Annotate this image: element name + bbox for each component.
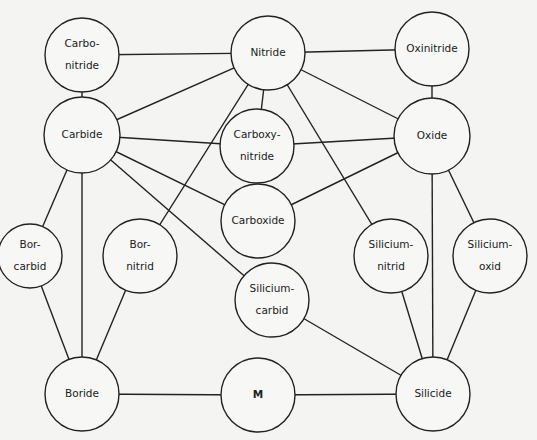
node-label: Silicium-: [468, 238, 513, 250]
node-siliciumcarbid: Silicium-carbid: [235, 263, 309, 337]
node-carboxide: Carboxide: [221, 184, 295, 258]
node-circle: [453, 219, 527, 293]
node-oxide: Oxide: [394, 98, 470, 174]
node-circle: [0, 224, 62, 288]
node-label: carbid: [14, 260, 47, 272]
node-label: Carbide: [62, 128, 103, 140]
node-siliciumnitrid: Silicium-nitrid: [354, 219, 428, 293]
node-label: M: [253, 388, 263, 400]
node-label: Carboxide: [231, 214, 284, 226]
node-siliciumoxid: Silicium-oxid: [453, 219, 527, 293]
node-label: Oxide: [417, 129, 448, 141]
node-carbide: Carbide: [44, 97, 120, 173]
node-boride: Boride: [45, 357, 119, 431]
node-label: nitride: [240, 150, 274, 162]
node-label: oxid: [479, 260, 501, 272]
node-label: Carboxy-: [234, 128, 281, 140]
node-carbonitride: Carbo-nitride: [45, 18, 119, 92]
node-bornitrid: Bor-nitrid: [103, 219, 177, 293]
node-label: Carbo-: [64, 37, 99, 49]
node-label: Bor-: [19, 238, 40, 250]
node-label: Silicium-: [369, 238, 414, 250]
node-label: nitrid: [377, 260, 405, 272]
node-nitride: Nitride: [231, 16, 305, 90]
node-silicide: Silicide: [396, 357, 470, 431]
node-borcarbid: Bor-carbid: [0, 224, 62, 288]
node-label: Nitride: [250, 46, 285, 58]
node-label: Bor-: [129, 238, 150, 250]
nodes-layer: Carbo-nitrideNitrideOxinitrideCarbideCar…: [0, 12, 527, 432]
node-label: nitride: [65, 59, 99, 71]
node-m: M: [221, 358, 295, 432]
node-circle: [354, 219, 428, 293]
node-label: carbid: [256, 304, 289, 316]
node-label: nitrid: [126, 260, 154, 272]
node-circle: [235, 263, 309, 337]
compound-relationship-diagram: Carbo-nitrideNitrideOxinitrideCarbideCar…: [0, 0, 537, 440]
node-label: Oxinitride: [406, 42, 457, 54]
node-carboxynitride: Carboxy-nitride: [220, 109, 294, 183]
node-label: Silicium-: [250, 282, 295, 294]
node-label: Silicide: [414, 387, 451, 399]
node-circle: [103, 219, 177, 293]
node-oxinitride: Oxinitride: [395, 12, 469, 86]
node-circle: [45, 18, 119, 92]
node-circle: [220, 109, 294, 183]
edge-oxide-silicide: [432, 136, 433, 394]
node-label: Boride: [65, 387, 99, 399]
